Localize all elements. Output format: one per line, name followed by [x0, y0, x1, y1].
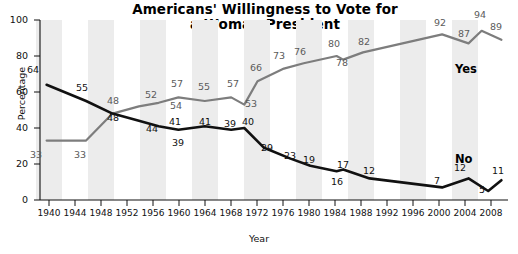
- background-band: [400, 20, 426, 200]
- background-band: [140, 20, 166, 200]
- x-tick-marks: [49, 200, 491, 206]
- y-tick-label: 40: [2, 122, 28, 133]
- data-label: 29: [256, 142, 278, 153]
- data-label: 78: [331, 57, 353, 68]
- chart-container: Americans' Willingness to Vote for a Wom…: [0, 0, 518, 254]
- data-label: 17: [332, 159, 354, 170]
- data-label: 41: [164, 116, 186, 127]
- y-tick-label: 60: [2, 86, 28, 97]
- data-label: 5: [471, 184, 493, 195]
- series-label-yes: Yes: [455, 62, 477, 76]
- data-label: 39: [167, 137, 189, 148]
- background-band: [88, 20, 114, 200]
- data-label: 87: [453, 28, 475, 39]
- data-label: 57: [222, 78, 244, 89]
- data-label: 16: [326, 176, 348, 187]
- data-label: 12: [358, 165, 380, 176]
- data-label: 44: [141, 123, 163, 134]
- data-label: 64: [22, 64, 44, 75]
- data-label: 80: [323, 38, 345, 49]
- data-label: 89: [485, 21, 507, 32]
- data-label: 94: [469, 9, 491, 20]
- data-label: 52: [140, 89, 162, 100]
- background-band: [244, 20, 270, 200]
- y-tick-label: 100: [2, 14, 28, 25]
- data-label: 41: [194, 116, 216, 127]
- series-label-no: No: [455, 152, 473, 166]
- background-band: [452, 20, 478, 200]
- y-tick-label: 0: [2, 194, 28, 205]
- data-label: 82: [353, 36, 375, 47]
- data-label: 48: [102, 112, 124, 123]
- series-line-yes: [47, 31, 502, 141]
- data-label: 48: [102, 95, 124, 106]
- data-label: 57: [166, 78, 188, 89]
- data-label: 33: [69, 149, 91, 160]
- data-label: 66: [245, 62, 267, 73]
- data-label: 53: [240, 98, 262, 109]
- data-label: 55: [193, 81, 215, 92]
- data-label: 33: [25, 149, 47, 160]
- data-label: 76: [289, 46, 311, 57]
- data-label: 54: [165, 100, 187, 111]
- data-label: 92: [429, 17, 451, 28]
- data-label: 55: [71, 82, 93, 93]
- data-label: 40: [237, 116, 259, 127]
- x-tick-label: 2008: [474, 208, 508, 218]
- data-label: 19: [298, 154, 320, 165]
- x-axis-label: Year: [0, 233, 518, 244]
- data-label: 11: [487, 165, 509, 176]
- background-band: [192, 20, 218, 200]
- data-label: 73: [268, 50, 290, 61]
- y-tick-label: 80: [2, 50, 28, 61]
- data-label: 7: [426, 175, 448, 186]
